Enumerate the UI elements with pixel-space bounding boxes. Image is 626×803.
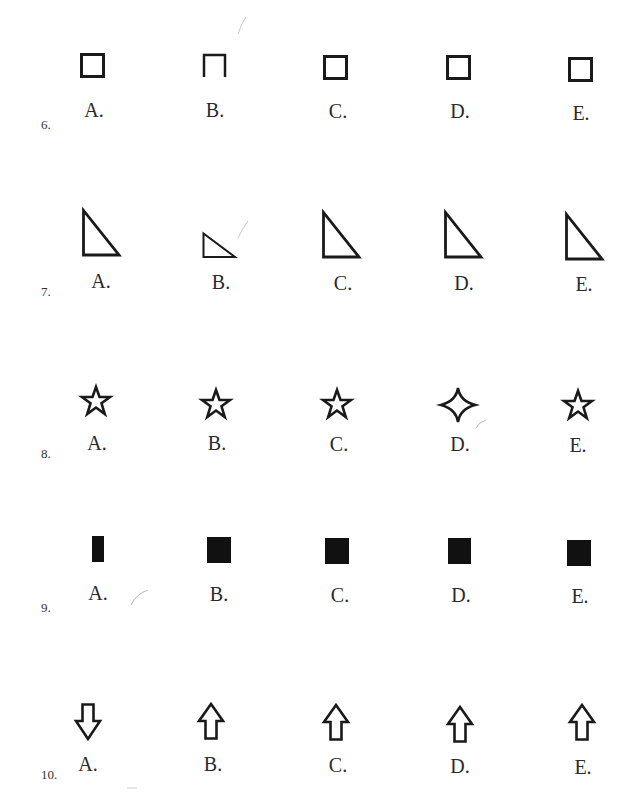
option-label: E. (575, 273, 592, 296)
question-number: 9. (41, 600, 51, 616)
five-point-star-icon (562, 389, 594, 421)
open-bottom-square-icon (202, 53, 228, 79)
four-point-star-icon (438, 386, 478, 424)
square-outline-icon (568, 57, 594, 83)
five-point-star-icon (80, 385, 112, 417)
question-number: 8. (41, 446, 51, 462)
option-label: B. (212, 271, 230, 294)
option-label: B. (206, 99, 224, 122)
right-triangle-icon (565, 213, 605, 263)
question-number: 10. (41, 767, 57, 783)
right-triangle-icon (322, 211, 362, 261)
small-right-triangle-icon (202, 232, 238, 260)
five-point-star-icon (200, 388, 232, 420)
square-outline-icon (446, 55, 472, 81)
scan-artifact (236, 220, 250, 240)
option-label: E. (569, 434, 586, 457)
square-outline-icon (80, 53, 106, 79)
arrow-up-icon (197, 702, 225, 740)
right-triangle-icon (82, 209, 122, 259)
option-label: E. (574, 756, 591, 779)
option-label: A. (88, 582, 107, 605)
option-label: B. (208, 432, 226, 455)
option-label: E. (572, 102, 589, 125)
option-label: C. (334, 272, 352, 295)
scan-artifact (474, 418, 488, 430)
option-label: A. (91, 270, 110, 293)
option-label: C. (329, 100, 347, 123)
option-label: B. (204, 753, 222, 776)
right-triangle-icon (444, 211, 484, 261)
square-outline-icon (323, 55, 349, 81)
question-number: 6. (41, 117, 51, 133)
option-label: E. (571, 585, 588, 608)
arrow-up-icon (446, 705, 474, 743)
scan-artifact (126, 786, 138, 790)
arrow-up-icon (568, 703, 596, 741)
filled-square-icon (207, 537, 231, 563)
option-label: A. (84, 99, 103, 122)
narrow-filled-rectangle-icon (92, 536, 104, 562)
option-label: B. (210, 583, 228, 606)
filled-square-icon (448, 538, 471, 564)
option-label: C. (331, 584, 349, 607)
filled-square-icon (567, 540, 591, 566)
question-number: 7. (41, 284, 51, 300)
option-label: D. (450, 433, 469, 456)
option-label: D. (451, 584, 470, 607)
scan-artifact (236, 16, 248, 36)
five-point-star-icon (321, 388, 353, 420)
option-label: C. (329, 754, 347, 777)
option-label: D. (450, 755, 469, 778)
arrow-down-icon (74, 703, 102, 741)
filled-square-icon (325, 538, 349, 564)
option-label: C. (330, 433, 348, 456)
option-label: A. (78, 753, 97, 776)
scan-artifact (128, 588, 150, 608)
option-label: A. (87, 432, 106, 455)
arrow-up-icon (322, 703, 350, 741)
option-label: D. (454, 272, 473, 295)
option-label: D. (450, 100, 469, 123)
